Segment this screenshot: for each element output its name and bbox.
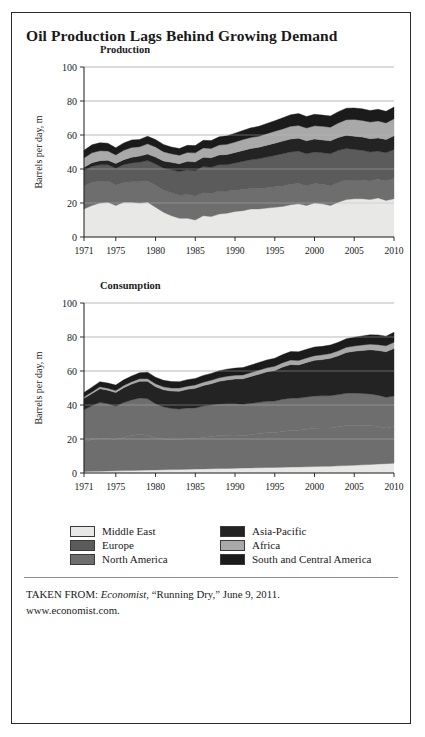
area-chart-consumption: 0204060801001971197519801985199019952000… xyxy=(12,291,410,516)
legend-swatch-europe xyxy=(70,540,95,551)
svg-text:1990: 1990 xyxy=(225,481,244,492)
legend-label-europe: Europe xyxy=(102,540,134,551)
source-attribution: TAKEN FROM: Economist, “Running Dry,” Ju… xyxy=(12,578,410,618)
page-title: Oil Production Lags Behind Growing Deman… xyxy=(12,13,410,44)
chart-title-consumption: Consumption xyxy=(12,280,410,291)
legend-item-middle-east: Middle East xyxy=(70,526,198,537)
legend-label-africa: Africa xyxy=(252,540,280,551)
source-publication: Economist xyxy=(101,588,147,600)
svg-text:1975: 1975 xyxy=(106,481,125,492)
source-prefix: TAKEN FROM: xyxy=(26,588,101,600)
legend-swatch-africa xyxy=(220,540,245,551)
legend-item-africa: Africa xyxy=(220,540,410,551)
legend-swatch-asia-pacific xyxy=(220,526,245,537)
legend-label-asia-pacific: Asia-Pacific xyxy=(252,526,306,537)
svg-text:2010: 2010 xyxy=(384,245,403,256)
legend-item-europe: Europe xyxy=(70,540,198,551)
svg-text:2000: 2000 xyxy=(305,245,324,256)
source-article: , “Running Dry,” June 9, 2011. xyxy=(146,588,280,600)
svg-text:1980: 1980 xyxy=(146,245,165,256)
source-website: www.economist.com. xyxy=(26,604,120,616)
legend-label-south-central-america: South and Central America xyxy=(252,554,371,565)
svg-text:Barrels per day, m: Barrels per day, m xyxy=(33,351,44,424)
svg-text:0: 0 xyxy=(72,468,77,479)
legend-item-north-america: North America xyxy=(70,554,198,565)
svg-text:2005: 2005 xyxy=(345,481,364,492)
area-chart-production: 0204060801001971197519801985199019952000… xyxy=(12,55,410,280)
chart-title-production: Production xyxy=(12,44,410,55)
svg-text:1971: 1971 xyxy=(74,481,93,492)
svg-text:20: 20 xyxy=(67,434,77,445)
svg-text:1995: 1995 xyxy=(265,245,284,256)
legend-label-north-america: North America xyxy=(102,554,168,565)
svg-text:1971: 1971 xyxy=(74,245,93,256)
chart-panel-production: Production 02040608010019711975198019851… xyxy=(12,44,410,280)
svg-text:40: 40 xyxy=(67,400,77,411)
chart-panel-consumption: Consumption 0204060801001971197519801985… xyxy=(12,280,410,516)
svg-text:60: 60 xyxy=(67,366,77,377)
svg-text:2005: 2005 xyxy=(345,245,364,256)
svg-text:0: 0 xyxy=(72,232,77,243)
svg-text:1995: 1995 xyxy=(265,481,284,492)
svg-text:60: 60 xyxy=(67,130,77,141)
svg-text:100: 100 xyxy=(62,62,77,73)
chart-canvas-production: 0204060801001971197519801985199019952000… xyxy=(12,55,410,280)
chart-legend: Middle East Asia-Pacific Europe Africa N… xyxy=(12,526,410,565)
legend-swatch-north-america xyxy=(70,554,95,565)
svg-text:40: 40 xyxy=(67,164,77,175)
svg-text:2010: 2010 xyxy=(384,481,403,492)
legend-swatch-south-central-america xyxy=(220,554,245,565)
svg-text:100: 100 xyxy=(62,298,77,309)
svg-text:1990: 1990 xyxy=(225,245,244,256)
svg-text:1985: 1985 xyxy=(186,481,205,492)
chart-canvas-consumption: 0204060801001971197519801985199019952000… xyxy=(12,291,410,516)
svg-text:80: 80 xyxy=(67,332,77,343)
svg-text:20: 20 xyxy=(67,198,77,209)
svg-text:Barrels per day, m: Barrels per day, m xyxy=(33,115,44,188)
svg-text:1980: 1980 xyxy=(146,481,165,492)
svg-text:2000: 2000 xyxy=(305,481,324,492)
legend-item-south-central-america: South and Central America xyxy=(220,554,410,565)
legend-swatch-middle-east xyxy=(70,526,95,537)
figure-frame: Oil Production Lags Behind Growing Deman… xyxy=(11,12,411,724)
svg-text:1975: 1975 xyxy=(106,245,125,256)
legend-item-asia-pacific: Asia-Pacific xyxy=(220,526,410,537)
legend-label-middle-east: Middle East xyxy=(102,526,155,537)
svg-text:80: 80 xyxy=(67,96,77,107)
svg-text:1985: 1985 xyxy=(186,245,205,256)
